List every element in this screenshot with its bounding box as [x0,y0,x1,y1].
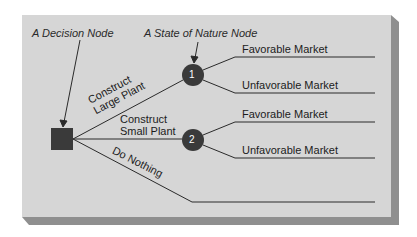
small-plant-label-line1: Construct [120,113,167,125]
panel-background [22,15,391,217]
node2-unfavorable-label: Unfavorable Market [242,144,338,156]
decision-tree-diagram: A Decision Node A State of Nature Node 1… [0,0,417,237]
state-of-nature-annotation: A State of Nature Node [144,27,257,39]
small-plant-label-line2: Small Plant [120,125,176,137]
node1-favorable-label: Favorable Market [242,43,328,55]
decision-node-square [51,128,73,150]
node-2-label: 2 [189,134,195,146]
decision-node-annotation: A Decision Node [32,27,114,39]
node-1-label: 1 [189,69,195,81]
node1-unfavorable-label: Unfavorable Market [242,79,338,91]
node2-favorable-label: Favorable Market [242,108,328,120]
